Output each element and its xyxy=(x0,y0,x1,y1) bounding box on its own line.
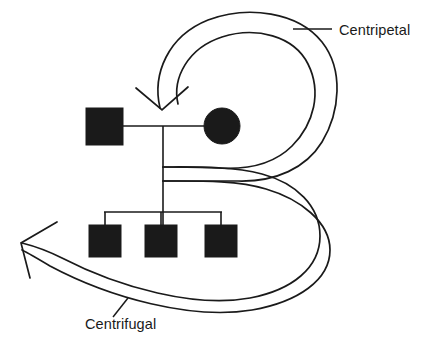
centripetal-arrowhead-icon xyxy=(136,87,188,110)
centripetal-label: Centripetal xyxy=(339,22,410,38)
pedigree-child-square-1 xyxy=(89,225,121,257)
figure-canvas: Centripetal Centrifugal xyxy=(0,0,431,348)
centrifugal-leader-line xyxy=(113,298,128,317)
pedigree-father-square xyxy=(86,108,123,145)
pedigree-child-square-3 xyxy=(205,225,237,257)
centripetal-loop xyxy=(136,12,337,181)
pedigree-child-square-2 xyxy=(145,225,177,257)
centrifugal-arrowhead-icon xyxy=(21,222,57,278)
centripetal-outer-arc xyxy=(158,12,337,181)
centripetal-inner-arc xyxy=(163,33,315,169)
centrifugal-label: Centrifugal xyxy=(85,316,156,332)
diagram-svg: Centripetal Centrifugal xyxy=(0,0,431,348)
pedigree-mother-circle xyxy=(204,108,240,144)
